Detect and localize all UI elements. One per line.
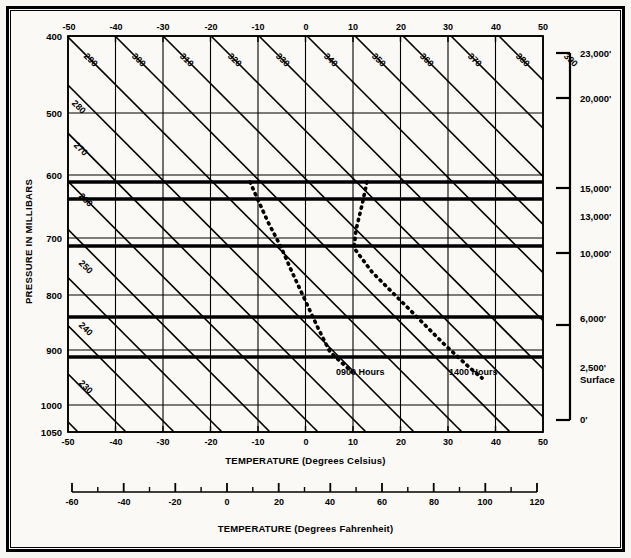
celsius-top-tick-0: 0 bbox=[297, 22, 315, 32]
altitude-label-0: 0' bbox=[580, 414, 588, 425]
fahrenheit-tick-n60: -60 bbox=[62, 497, 82, 507]
pressure-tick-500: 500 bbox=[26, 108, 62, 119]
celsius-top-tick-20: 20 bbox=[392, 22, 410, 32]
altitude-label-6000: 6,000' bbox=[580, 313, 606, 324]
celsius-top-tick-30: 30 bbox=[439, 22, 457, 32]
altitude-label-surface: Surface bbox=[580, 374, 615, 385]
celsius-bottom-tick-n30: -30 bbox=[154, 437, 172, 447]
celsius-top-tick-n10: -10 bbox=[249, 22, 267, 32]
fahrenheit-tick-100: 100 bbox=[474, 497, 496, 507]
fahrenheit-tick-0: 0 bbox=[217, 497, 237, 507]
celsius-top-tick-n20: -20 bbox=[202, 22, 220, 32]
fahrenheit-tick-n20: -20 bbox=[165, 497, 185, 507]
fahrenheit-tick-40: 40 bbox=[320, 497, 340, 507]
celsius-top-tick-n50: -50 bbox=[60, 22, 78, 32]
celsius-axis-title: TEMPERATURE (Degrees Celsius) bbox=[0, 455, 611, 466]
fahrenheit-axis-title: TEMPERATURE (Degrees Fahrenheit) bbox=[0, 523, 611, 534]
celsius-bottom-tick-20: 20 bbox=[392, 437, 410, 447]
celsius-bottom-tick-30: 30 bbox=[439, 437, 457, 447]
pressure-tick-1050: 1050 bbox=[22, 427, 62, 438]
fahrenheit-tick-20: 20 bbox=[269, 497, 289, 507]
celsius-top-tick-n30: -30 bbox=[154, 22, 172, 32]
sounding-label-0900: 0900 Hours bbox=[336, 367, 385, 377]
celsius-bottom-tick-0: 0 bbox=[297, 437, 315, 447]
altitude-label-20000: 20,000' bbox=[580, 93, 611, 104]
celsius-bottom-tick-n20: -20 bbox=[202, 437, 220, 447]
sounding-label-1400: 1400 Hours bbox=[449, 367, 498, 377]
altitude-label-10000: 10,000' bbox=[580, 248, 611, 259]
celsius-bottom-tick-n10: -10 bbox=[249, 437, 267, 447]
altitude-label-15000: 15,000' bbox=[580, 183, 611, 194]
celsius-bottom-tick-n50: -50 bbox=[59, 437, 77, 447]
altitude-label-2500: 2,500' bbox=[580, 362, 606, 373]
fahrenheit-tick-80: 80 bbox=[424, 497, 444, 507]
altitude-label-13000: 13,000' bbox=[580, 211, 611, 222]
celsius-bottom-tick-n40: -40 bbox=[107, 437, 125, 447]
pressure-tick-400: 400 bbox=[26, 31, 62, 42]
pressure-tick-600: 600 bbox=[26, 170, 62, 181]
celsius-top-tick-n40: -40 bbox=[107, 22, 125, 32]
altitude-bracket-scale bbox=[556, 53, 570, 420]
celsius-top-tick-50: 50 bbox=[534, 22, 552, 32]
pressure-tick-800: 800 bbox=[26, 290, 62, 301]
pressure-tick-700: 700 bbox=[26, 233, 62, 244]
celsius-bottom-tick-10: 10 bbox=[344, 437, 362, 447]
chart-grid-layer bbox=[0, 0, 631, 558]
fahrenheit-tick-120: 120 bbox=[526, 497, 548, 507]
pressure-tick-1000: 1000 bbox=[22, 400, 62, 411]
fahrenheit-tick-n40: -40 bbox=[114, 497, 134, 507]
thermodynamic-diagram: PRESSURE IN MILLIBARS 400 500 600 700 80… bbox=[0, 0, 631, 558]
pressure-tick-900: 900 bbox=[26, 345, 62, 356]
celsius-top-tick-40: 40 bbox=[487, 22, 505, 32]
altitude-label-23000: 23,000' bbox=[580, 48, 611, 59]
fahrenheit-tick-60: 60 bbox=[372, 497, 392, 507]
celsius-bottom-tick-40: 40 bbox=[487, 437, 505, 447]
celsius-top-tick-10: 10 bbox=[344, 22, 362, 32]
celsius-bottom-tick-50: 50 bbox=[534, 437, 552, 447]
